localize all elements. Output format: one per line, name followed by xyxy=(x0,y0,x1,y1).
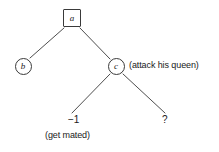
tree-edges xyxy=(0,0,219,152)
game-tree-figure: a b c (attack his queen) −1 (get mated) … xyxy=(0,0,219,152)
node-b-label: b xyxy=(21,61,26,70)
node-c[interactable]: c xyxy=(108,58,125,75)
leaf-value-left: −1 xyxy=(68,115,79,125)
node-a-label: a xyxy=(70,13,75,22)
leaf-left-annotation: (get mated) xyxy=(45,131,90,140)
edge-a-to-c xyxy=(80,28,110,59)
node-c-annotation: (attack his queen) xyxy=(129,61,199,70)
edge-c-to-left-leaf xyxy=(72,74,110,113)
node-c-label: c xyxy=(114,61,118,70)
node-b[interactable]: b xyxy=(15,58,32,75)
edge-c-to-right-leaf xyxy=(123,74,165,113)
leaf-value-right: ? xyxy=(162,115,168,125)
node-a[interactable]: a xyxy=(63,9,81,27)
edge-a-to-b xyxy=(30,28,64,58)
